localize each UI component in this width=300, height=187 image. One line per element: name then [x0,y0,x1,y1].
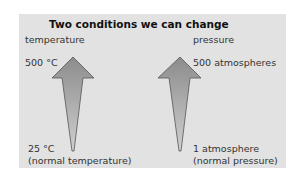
arrows-graphic [0,0,300,187]
temperature-up-arrow-icon [52,57,94,151]
pressure-up-arrow-icon [158,57,201,151]
